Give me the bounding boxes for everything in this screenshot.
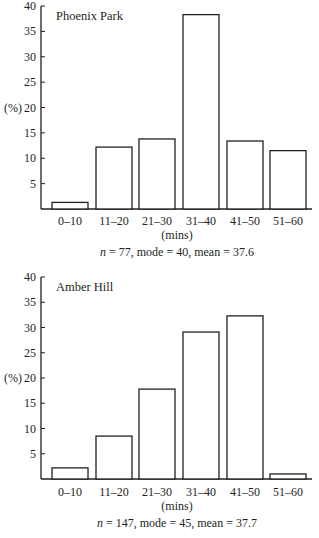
y-tick-label: 20 [24, 371, 36, 385]
y-tick-label: 35 [24, 295, 36, 309]
bar-51-60 [270, 474, 306, 479]
x-axis-label: (mins) [161, 228, 192, 242]
bar-41-50 [227, 316, 263, 479]
y-tick-label: 10 [24, 422, 36, 436]
x-tick-label: 11–20 [99, 214, 129, 228]
bar-11-20 [96, 147, 132, 209]
bar-41-50 [227, 141, 263, 209]
y-axis-label: (%) [4, 101, 22, 115]
bar-31-40 [183, 15, 219, 209]
y-tick-label: 40 [24, 270, 36, 284]
x-tick-label: 11–20 [99, 485, 129, 499]
x-tick-label: 0–10 [58, 214, 82, 228]
x-tick-label: 41–50 [230, 214, 260, 228]
histogram-figure: 510152025303540(%)Phoenix Park0–1011–202… [0, 0, 319, 538]
bar-21-30 [139, 139, 175, 209]
x-tick-label: 21–30 [142, 214, 172, 228]
y-tick-label: 5 [30, 447, 36, 461]
x-tick-label: 0–10 [58, 485, 82, 499]
y-tick-label: 30 [24, 50, 36, 64]
y-tick-label: 15 [24, 396, 36, 410]
y-axis-label: (%) [4, 371, 22, 385]
bar-11-20 [96, 436, 132, 479]
y-tick-label: 25 [24, 346, 36, 360]
caption-stats: = 147, mode = 45, mean = 37.7 [103, 516, 257, 530]
x-tick-label: 31–40 [186, 214, 216, 228]
chart-phoenix-park: 510152025303540(%)Phoenix Park0–1011–202… [4, 0, 312, 259]
y-tick-label: 40 [24, 0, 36, 13]
x-tick-label: 51–60 [273, 485, 303, 499]
bar-0-10 [52, 468, 88, 479]
x-tick-label: 41–50 [230, 485, 260, 499]
y-tick-label: 5 [30, 177, 36, 191]
caption-stats: = 77, mode = 40, mean = 37.6 [106, 245, 254, 259]
y-tick-label: 15 [24, 126, 36, 140]
y-tick-label: 25 [24, 75, 36, 89]
bar-31-40 [183, 332, 219, 479]
x-axis-label: (mins) [161, 499, 192, 513]
chart-title: Phoenix Park [56, 9, 124, 23]
chart-title: Amber Hill [56, 280, 114, 294]
y-tick-label: 20 [24, 101, 36, 115]
y-tick-label: 10 [24, 151, 36, 165]
bar-0-10 [52, 202, 88, 209]
y-tick-label: 35 [24, 24, 36, 38]
chart-caption: n = 147, mode = 45, mean = 37.7 [97, 516, 257, 530]
x-tick-label: 21–30 [142, 485, 172, 499]
bar-21-30 [139, 389, 175, 479]
chart-caption: n = 77, mode = 40, mean = 37.6 [100, 245, 254, 259]
x-tick-label: 51–60 [273, 214, 303, 228]
chart-amber-hill: 510152025303540(%)Amber Hill0–1011–2021–… [4, 270, 312, 530]
y-tick-label: 30 [24, 321, 36, 335]
x-tick-label: 31–40 [186, 485, 216, 499]
bar-51-60 [270, 151, 306, 209]
